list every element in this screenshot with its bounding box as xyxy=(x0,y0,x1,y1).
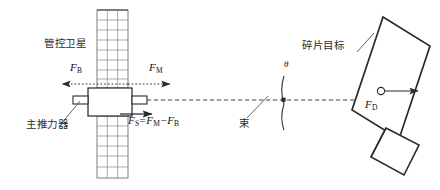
force-fd-subscript: D xyxy=(372,103,378,112)
force-fm-label: FM xyxy=(149,62,163,74)
figure-canvas: 管控卫星 主推力器 FB FM FS=FM−FB 束 θ 碎片目标 FD xyxy=(0,0,440,190)
force-fm-symbol: F xyxy=(149,61,156,73)
beam-angle-marker xyxy=(281,76,285,130)
force-fb-symbol: F xyxy=(70,61,77,73)
fs-symbol: F xyxy=(128,114,135,126)
debris-center-of-mass-marker xyxy=(377,87,384,94)
force-fb-subscript: B xyxy=(77,66,82,75)
force-fs-equation: FS=FM−FB xyxy=(128,115,179,127)
satellite-label: 管控卫星 xyxy=(44,38,86,49)
debris-appendage-panel xyxy=(371,128,419,175)
force-fd-symbol: F xyxy=(365,98,372,110)
beam-angle-label: θ xyxy=(284,60,288,69)
main-thruster-nozzle xyxy=(132,96,147,104)
force-fb-label: FB xyxy=(70,62,82,74)
back-thruster-nozzle xyxy=(73,96,88,104)
beam-label: 束 xyxy=(239,118,250,129)
fs-term2-subscript: B xyxy=(174,119,179,128)
debris-target-body xyxy=(352,17,430,139)
beam-label-leader-line xyxy=(247,96,268,118)
diagram-vector-layer xyxy=(0,0,440,190)
fs-term1-subscript: M xyxy=(153,119,160,128)
satellite-solar-panel-lower xyxy=(97,116,128,178)
force-fm-subscript: M xyxy=(156,66,163,75)
force-fd-label: FD xyxy=(365,99,377,111)
satellite-solar-panel-upper xyxy=(97,10,128,88)
satellite-body xyxy=(88,88,132,116)
fs-term2-symbol: F xyxy=(167,114,174,126)
debris-target-label: 碎片目标 xyxy=(302,40,344,51)
main-thruster-label: 主推力器 xyxy=(26,119,68,130)
